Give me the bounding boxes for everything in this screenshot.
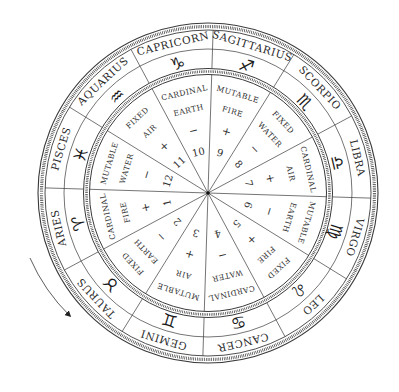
pisces-glyph-icon: ♓︎ xyxy=(69,144,93,164)
element-label: WATER xyxy=(211,268,244,284)
sign-name-label: VIRGO xyxy=(344,216,367,258)
sagittarius-glyph-icon: ♐︎ xyxy=(236,54,256,78)
aries-glyph-icon: ♈︎ xyxy=(67,214,90,233)
direction-arrow-icon xyxy=(30,258,70,316)
modality-label: CARDINAL xyxy=(160,83,208,103)
outer-divider-line xyxy=(318,116,352,134)
polarity-sign: + xyxy=(263,172,278,184)
modality-label: MUTABLE xyxy=(156,281,201,302)
polarity-sign: − xyxy=(153,229,169,245)
element-label: FIRE xyxy=(221,104,244,119)
inner-divider-line xyxy=(208,193,326,197)
element-label: EARTH xyxy=(173,102,205,118)
polarity-sign: − xyxy=(187,123,199,138)
polarity-sign: − xyxy=(262,205,277,218)
inner-divider-line xyxy=(90,189,208,193)
element-label: AIR xyxy=(140,122,158,140)
outer-divider-line xyxy=(267,303,285,337)
sector-virgo: VIRGO♍︎MUTABLEEARTH−6 xyxy=(242,200,367,258)
polarity-sign: − xyxy=(217,248,229,263)
inner-divider-line xyxy=(204,193,208,311)
outer-divider-line xyxy=(314,259,347,279)
outer-divider-line xyxy=(64,252,98,270)
modality-label: CARDINAL xyxy=(298,145,318,193)
element-label: AIR xyxy=(175,268,194,281)
house-number: 10 xyxy=(191,145,206,159)
center-dot xyxy=(206,191,210,195)
house-number: 6 xyxy=(242,200,254,209)
sign-name-label: PISCES xyxy=(48,125,72,171)
house-number: 3 xyxy=(191,227,200,239)
house-number: 5 xyxy=(231,217,243,229)
house-number: 8 xyxy=(232,158,244,170)
house-number: 2 xyxy=(171,216,183,228)
house-number: 7 xyxy=(243,179,255,188)
house-number: 1 xyxy=(161,198,173,207)
house-number: 4 xyxy=(213,228,222,240)
inner-divider-line xyxy=(146,193,208,294)
modality-label: CARDINAL xyxy=(207,283,255,303)
cancer-glyph-icon: ♋︎ xyxy=(229,311,248,334)
outer-divider-line xyxy=(122,299,142,332)
sector-pisces: PISCES♓︎MUTABLEWATER−12 xyxy=(48,125,175,188)
house-number: 11 xyxy=(171,154,188,171)
outer-divider-line xyxy=(69,107,102,127)
sector-leo: LEO♌︎FIXEDFIRE+5 xyxy=(231,217,327,318)
modality-label: MUTABLE xyxy=(215,84,260,105)
element-label: FIRE xyxy=(255,244,277,265)
gemini-glyph-icon: ♊︎ xyxy=(159,309,179,333)
libra-glyph-icon: ♎︎ xyxy=(326,153,349,172)
polarity-sign: + xyxy=(244,232,260,248)
polarity-sign: + xyxy=(220,124,233,139)
element-label: FIRE xyxy=(118,201,132,224)
polarity-sign: − xyxy=(139,168,154,181)
element-label: WATER xyxy=(118,152,136,185)
sign-name-label: LIBRA xyxy=(348,138,368,177)
sector-taurus: TAURUS♉︎FIXEDEARTH−2 xyxy=(74,216,183,321)
sign-name-label: CANCER xyxy=(216,331,270,355)
house-number: 12 xyxy=(161,173,175,188)
inner-divider-line xyxy=(208,92,270,193)
virgo-glyph-icon: ♍︎ xyxy=(324,221,348,241)
modality-label: MUTABLE xyxy=(296,200,317,245)
modality-label: CARDINAL xyxy=(98,192,118,240)
polarity-sign: + xyxy=(183,247,196,262)
capricorn-glyph-icon: ♑︎ xyxy=(168,52,187,75)
house-number: 9 xyxy=(215,147,224,159)
polarity-sign: + xyxy=(138,202,153,214)
polarity-sign: − xyxy=(247,141,263,157)
inner-divider-line xyxy=(208,75,212,193)
element-label: AIR xyxy=(284,164,297,182)
modality-label: MUTABLE xyxy=(99,141,120,186)
polarity-sign: + xyxy=(156,138,172,154)
zodiac-wheel: ARIES♈︎CARDINALFIRE+1TAURUS♉︎FIXEDEARTH−… xyxy=(0,0,399,392)
element-label: EARTH xyxy=(281,202,299,234)
